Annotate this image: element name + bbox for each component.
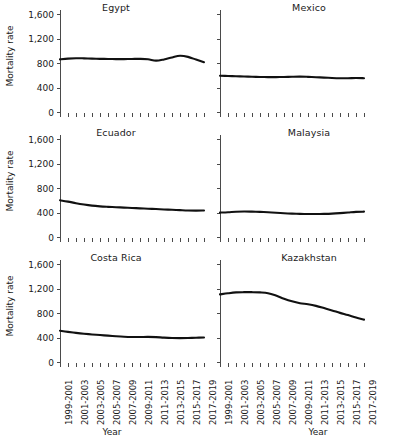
x-axis-tick-label: 2009-2011 (144, 380, 154, 425)
svg-text:1,200: 1,200 (28, 159, 54, 169)
panel-mexico: Mexico (206, 0, 412, 125)
panel-kazakhstan: Kazakhstan (206, 250, 412, 375)
panel-row-2: Ecuador Mortality rate 04008001,2001,600… (0, 125, 412, 250)
x-axis-tick-label: 2003-2005 (256, 380, 266, 425)
svg-text:0: 0 (48, 233, 54, 243)
x-axis-tick-label: 2009-2011 (304, 380, 314, 425)
svg-text:1,600: 1,600 (28, 10, 54, 20)
plot-area-mexico (206, 0, 412, 125)
svg-text:1,200: 1,200 (28, 284, 54, 294)
svg-text:800: 800 (37, 59, 54, 69)
x-axis-tick-label: 2011-2013 (160, 380, 170, 425)
x-axis-tick-label: 1999-2001 (224, 380, 234, 425)
plot-area-costa-rica: 04008001,2001,600 (0, 250, 206, 375)
panel-malaysia: Malaysia (206, 125, 412, 250)
x-axis-tick-label: 2007-2009 (128, 380, 138, 425)
svg-text:800: 800 (37, 184, 54, 194)
x-axis-title-left: Year (42, 427, 182, 437)
x-axis-tick-label: 2005-2007 (272, 380, 282, 425)
x-axis-tick-label: 2017-2019 (208, 380, 218, 425)
panel-row-1: Egypt Mortality rate 04008001,2001,600 M… (0, 0, 412, 125)
plot-area-kazakhstan (206, 250, 412, 375)
svg-text:400: 400 (37, 83, 54, 93)
svg-text:400: 400 (37, 208, 54, 218)
x-axis-tick-label: 1999-2001 (64, 380, 74, 425)
svg-text:1,200: 1,200 (28, 34, 54, 44)
x-axis-tick-label: 2003-2005 (96, 380, 106, 425)
mortality-rate-small-multiples-figure: Egypt Mortality rate 04008001,2001,600 M… (0, 0, 412, 442)
x-axis-tick-label: 2015-2017 (192, 380, 202, 425)
x-axis-title-right: Year (248, 427, 388, 437)
x-axis-tick-label: 2007-2009 (288, 380, 298, 425)
x-axis-tick-label: 2015-2017 (352, 380, 362, 425)
panel-egypt: Egypt Mortality rate 04008001,2001,600 (0, 0, 206, 125)
svg-text:1,600: 1,600 (28, 260, 54, 270)
x-axis-tick-label: 2017-2019 (368, 380, 378, 425)
svg-text:0: 0 (48, 108, 54, 118)
x-axis-tick-label: 2011-2013 (320, 380, 330, 425)
x-axis-tick-label: 2001-2003 (80, 380, 90, 425)
plot-area-egypt: 04008001,2001,600 (0, 0, 206, 125)
panel-row-3: Costa Rica Mortality rate 04008001,2001,… (0, 250, 412, 375)
plot-area-ecuador: 04008001,2001,600 (0, 125, 206, 250)
plot-area-malaysia (206, 125, 412, 250)
x-axis-tick-label: 2005-2007 (112, 380, 122, 425)
x-axis-block: 1999-20012001-20032003-20052005-20072007… (0, 375, 412, 442)
svg-text:400: 400 (37, 333, 54, 343)
x-axis-tick-label: 2013-2015 (336, 380, 346, 425)
panel-costa-rica: Costa Rica Mortality rate 04008001,2001,… (0, 250, 206, 375)
panel-ecuador: Ecuador Mortality rate 04008001,2001,600 (0, 125, 206, 250)
x-axis-tick-label: 2013-2015 (176, 380, 186, 425)
svg-text:800: 800 (37, 309, 54, 319)
x-axis-tick-label: 2001-2003 (240, 380, 250, 425)
svg-text:1,600: 1,600 (28, 135, 54, 145)
svg-text:0: 0 (48, 358, 54, 368)
